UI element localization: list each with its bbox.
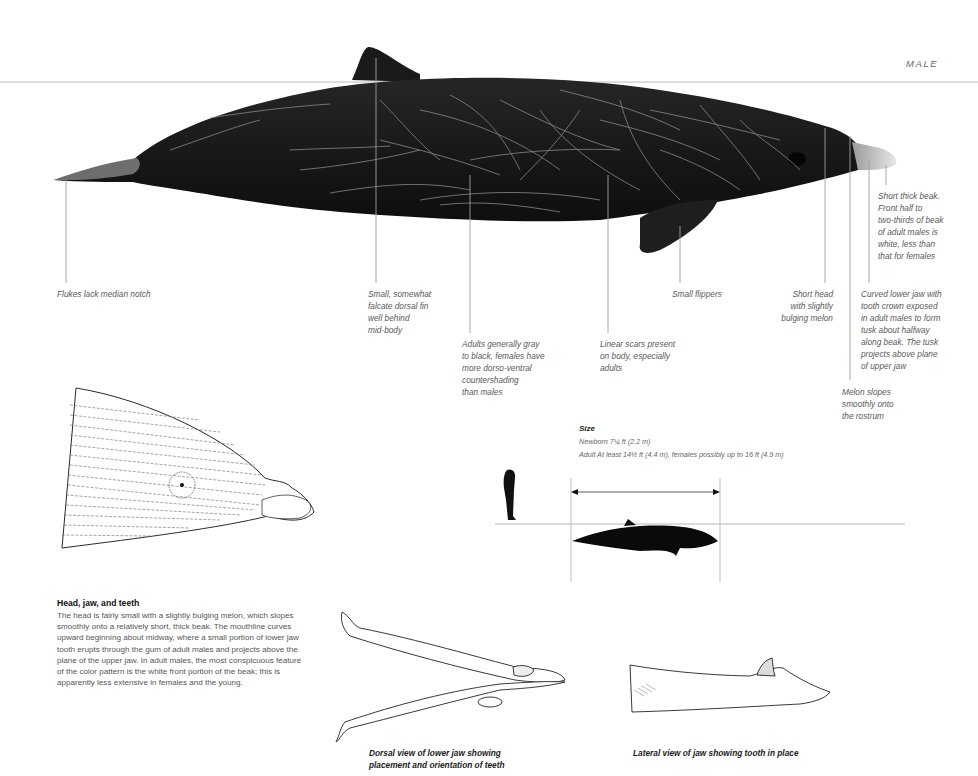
size-title: Size xyxy=(579,424,595,433)
whale-silhouette xyxy=(572,526,718,556)
annotation-flippers: Small flippers xyxy=(672,288,722,300)
annotation-dorsal-fin: Small, somewhat falcate dorsal fin well … xyxy=(368,288,431,336)
head-sketch xyxy=(62,388,314,548)
annotation-flukes: Flukes lack median notch xyxy=(57,288,151,300)
beak-shape xyxy=(852,142,896,170)
size-adult: Adult At least 14½ ft (4.4 m), females p… xyxy=(579,450,784,459)
section-title: Head, jaw, and teeth xyxy=(57,598,139,608)
whale-illustration xyxy=(54,47,896,253)
sex-label: MALE xyxy=(906,58,938,69)
annotation-beak: Short thick beak. Front half to two-thir… xyxy=(878,190,943,262)
caption-dorsal-jaw: Dorsal view of lower jaw showing placeme… xyxy=(369,747,505,771)
annotation-lower-jaw: Curved lower jaw with tooth crown expose… xyxy=(861,288,942,372)
annotation-coloration: Adults generally gray to black, females … xyxy=(462,338,545,398)
size-newborn: Newborn 7¼ ft (2.2 m) xyxy=(579,437,651,446)
dorsal-jaw-drawing xyxy=(336,612,565,742)
human-silhouette xyxy=(504,469,516,520)
annotation-melon: Melon slopes smoothly onto the rostrum xyxy=(842,386,894,422)
dorsal-fin-shape xyxy=(352,47,420,82)
lateral-jaw-drawing xyxy=(630,658,830,712)
annotation-head: Short head with slightly bulging melon xyxy=(780,288,833,324)
section-body: The head is fairly small with a slightly… xyxy=(57,610,307,688)
eye-shape xyxy=(788,152,806,166)
annotation-scars: Linear scars present on body, especially… xyxy=(600,338,675,374)
caption-lateral-jaw: Lateral view of jaw showing tooth in pla… xyxy=(633,747,799,759)
size-comparison xyxy=(495,469,905,582)
